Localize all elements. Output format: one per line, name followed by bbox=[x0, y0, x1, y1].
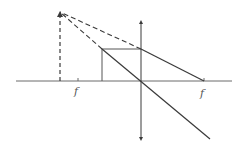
extension-central-ray bbox=[60, 12, 102, 49]
focal-label-left: f bbox=[73, 85, 80, 98]
extension-parallel-ray bbox=[60, 12, 141, 49]
parallel-ray-out bbox=[141, 49, 204, 81]
focal-label-right: f bbox=[199, 87, 206, 100]
central-ray bbox=[102, 49, 210, 139]
lens-ray-diagram: f f bbox=[0, 0, 244, 157]
image-arrowhead-icon bbox=[57, 11, 63, 17]
